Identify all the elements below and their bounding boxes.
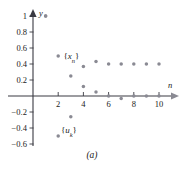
data-points-group (44, 14, 161, 138)
y-axis-ticks: −0.6−0.4−0.20.20.40.60.81 (12, 11, 34, 149)
x-axis-label: n (168, 80, 172, 90)
data-point (56, 54, 60, 58)
data-point (82, 85, 86, 89)
data-point (107, 94, 111, 98)
x-tick-label: 4 (81, 99, 86, 109)
data-point (69, 74, 73, 78)
series-annotation: {uk} (61, 125, 77, 138)
y-axis-label: y (38, 8, 43, 18)
x-tick-label: 10 (155, 99, 164, 109)
data-point (145, 94, 149, 98)
data-point (132, 62, 136, 66)
series-annotation: {xn} (63, 51, 79, 64)
series-annotations-group: {xn}{uk} (61, 51, 79, 137)
series-2-points (44, 14, 161, 138)
data-point (145, 62, 149, 66)
y-tick-label: 0.8 (16, 27, 27, 37)
data-point (132, 94, 136, 98)
y-tick-label: 0.4 (16, 59, 27, 69)
x-axis-arrowhead (171, 92, 179, 99)
y-tick-label: 0.2 (16, 75, 27, 85)
y-tick-label: 1 (23, 11, 27, 21)
series-1-points (44, 14, 161, 78)
y-tick-label: −0.2 (12, 107, 27, 117)
y-tick-label: −0.4 (12, 123, 28, 133)
data-point (119, 62, 123, 66)
figure-caption: (a) (0, 150, 184, 160)
data-point (44, 14, 48, 18)
data-point (69, 115, 73, 119)
data-point (157, 62, 161, 66)
figure-container: −0.6−0.4−0.20.20.40.60.81 246810 y n {xn… (0, 0, 184, 169)
axes-group (8, 9, 179, 146)
data-point (157, 94, 161, 98)
y-tick-label: −0.6 (12, 139, 27, 149)
data-point (94, 90, 98, 94)
brace-close: } (73, 125, 77, 135)
data-point (94, 60, 98, 64)
data-point (119, 97, 123, 101)
brace-close: } (75, 51, 79, 61)
x-tick-label: 8 (132, 99, 136, 109)
data-point (56, 134, 60, 138)
scatter-plot: −0.6−0.4−0.20.20.40.60.81 246810 y n {xn… (0, 0, 184, 169)
y-tick-label: 0.6 (16, 43, 27, 53)
data-point (82, 65, 86, 69)
data-point (107, 62, 111, 66)
x-tick-label: 2 (56, 99, 60, 109)
x-tick-label: 6 (106, 99, 110, 109)
